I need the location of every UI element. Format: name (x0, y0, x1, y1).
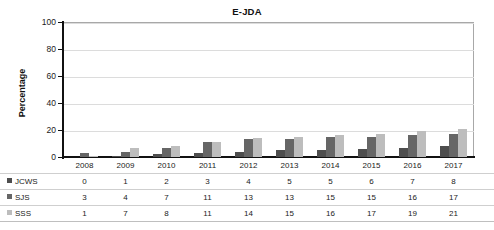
bar-sjs-2014 (326, 137, 335, 157)
table-cell: 15 (351, 192, 392, 203)
table-header-cell: 2015 (351, 160, 392, 171)
bar-sjs-2011 (203, 142, 212, 157)
legend-entry-sjs: SJS (7, 192, 30, 203)
bar-jcws-2015 (358, 149, 367, 157)
series-label: JCWS (15, 177, 38, 186)
table-cell: 0 (64, 176, 105, 187)
table-cell: 6 (351, 176, 392, 187)
bar-jcws-2010 (153, 154, 162, 157)
data-table: 2008200920102011201220132014201520162017… (0, 158, 494, 222)
bar-group (146, 22, 187, 157)
y-tick-mark (58, 103, 62, 104)
table-header-row: 2008200920102011201220132014201520162017 (0, 158, 494, 174)
legend-entry-sss: SSS (7, 208, 31, 219)
table-cell: 8 (433, 176, 474, 187)
legend-swatch-icon (7, 178, 12, 183)
bar-jcws-2014 (317, 150, 326, 157)
y-tick-label: 80 (22, 45, 56, 54)
table-cell: 3 (64, 192, 105, 203)
legend-entry-jcws: JCWS (7, 176, 38, 187)
bar-jcws-2011 (194, 153, 203, 157)
bar-sss-2009 (130, 148, 139, 157)
bar-group (187, 22, 228, 157)
bar-group (351, 22, 392, 157)
table-cell: 8 (146, 208, 187, 219)
y-tick-mark (58, 49, 62, 50)
bar-sjs-2016 (408, 135, 417, 157)
table-header-cell: 2014 (310, 160, 351, 171)
table-cell: 1 (64, 208, 105, 219)
table-row: SSS17811141516171921 (0, 206, 494, 222)
table-cell: 7 (146, 192, 187, 203)
bar-group (269, 22, 310, 157)
series-label: SSS (15, 209, 31, 218)
y-tick-mark (58, 76, 62, 77)
y-tick-mark (58, 130, 62, 131)
table-cell: 5 (269, 176, 310, 187)
bar-sjs-2015 (367, 137, 376, 157)
bar-sss-2016 (417, 131, 426, 157)
table-cell: 16 (310, 208, 351, 219)
table-cell: 17 (433, 192, 474, 203)
table-cell: 16 (392, 192, 433, 203)
bar-group (392, 22, 433, 157)
chart-title: E-JDA (0, 6, 494, 17)
table-header-cell: 2010 (146, 160, 187, 171)
bar-sjs-2013 (285, 139, 294, 157)
table-row: JCWS0123455678 (0, 174, 494, 190)
bar-jcws-2012 (235, 152, 244, 157)
bar-group (105, 22, 146, 157)
y-tick-mark (58, 22, 62, 23)
bar-sjs-2009 (121, 152, 130, 157)
table-cell: 13 (228, 192, 269, 203)
table-header-cell: 2013 (269, 160, 310, 171)
bar-sss-2013 (294, 137, 303, 157)
y-tick-label: 20 (22, 126, 56, 135)
y-tick-label: 60 (22, 72, 56, 81)
bar-jcws-2013 (276, 150, 285, 157)
bar-sjs-2017 (449, 134, 458, 157)
bar-sjs-2008 (80, 153, 89, 157)
table-cell: 7 (105, 208, 146, 219)
table-row: SJS34711131315151617 (0, 190, 494, 206)
table-cell: 19 (392, 208, 433, 219)
bar-group (64, 22, 105, 157)
table-header-cell: 2008 (64, 160, 105, 171)
y-tick-label: 100 (22, 18, 56, 27)
bar-series-layer (64, 22, 474, 157)
legend-swatch-icon (7, 210, 12, 215)
table-header-cell: 2017 (433, 160, 474, 171)
y-tick-label: 40 (22, 99, 56, 108)
table-cell: 14 (228, 208, 269, 219)
table-cell: 1 (105, 176, 146, 187)
table-header-cell: 2011 (187, 160, 228, 171)
table-header-cell: 2016 (392, 160, 433, 171)
table-header-cell: 2009 (105, 160, 146, 171)
bar-group (433, 22, 474, 157)
y-axis-title: Percentage (18, 58, 27, 128)
bar-group (310, 22, 351, 157)
legend-swatch-icon (7, 194, 12, 199)
table-cell: 4 (105, 192, 146, 203)
bar-sss-2015 (376, 134, 385, 157)
series-label: SJS (15, 193, 30, 202)
bar-jcws-2016 (399, 148, 408, 157)
table-header-cell: 2012 (228, 160, 269, 171)
table-cell: 3 (187, 176, 228, 187)
bar-group (228, 22, 269, 157)
table-cell: 11 (187, 208, 228, 219)
table-cell: 5 (310, 176, 351, 187)
table-cell: 11 (187, 192, 228, 203)
bar-sjs-2010 (162, 148, 171, 157)
bar-sss-2011 (212, 142, 221, 157)
bar-jcws-2009 (112, 156, 121, 157)
bar-sss-2008 (89, 156, 98, 157)
table-cell: 13 (269, 192, 310, 203)
table-cell: 4 (228, 176, 269, 187)
bar-sss-2012 (253, 138, 262, 157)
bar-sjs-2012 (244, 139, 253, 157)
table-cell: 7 (392, 176, 433, 187)
chart-screenshot: E-JDA Percentage 020406080100 2008200920… (0, 0, 494, 230)
table-cell: 21 (433, 208, 474, 219)
table-cell: 17 (351, 208, 392, 219)
